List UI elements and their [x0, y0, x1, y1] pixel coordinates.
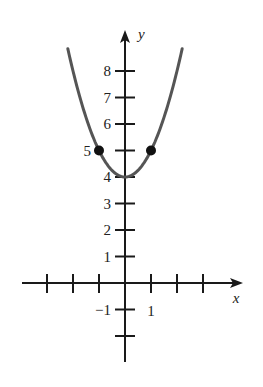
y-tick-label: 3: [104, 196, 112, 212]
y-tick-label: 2: [104, 222, 112, 238]
y-tick-label: 1: [104, 249, 112, 265]
y-tick-label: 5: [84, 143, 92, 159]
y-tick-label: 8: [104, 63, 112, 79]
y-tick-label: 7: [104, 90, 112, 106]
y-tick-label: −1: [95, 302, 111, 318]
y-axis-label: y: [136, 26, 145, 42]
x-tick-label: 1: [147, 303, 155, 319]
x-axis-label: x: [232, 290, 240, 306]
parabola-chart: −1123456781xy: [0, 0, 263, 387]
data-point-dot: [94, 146, 104, 156]
tick-labels: −1123456781xy: [84, 26, 240, 319]
y-tick-label: 4: [104, 169, 112, 185]
axes: [22, 30, 243, 362]
data-point-dot: [146, 146, 156, 156]
y-tick-label: 6: [104, 116, 112, 132]
